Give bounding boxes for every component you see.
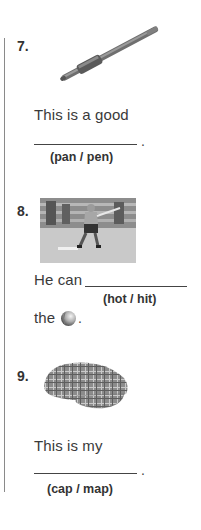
- ball-icon: [60, 310, 77, 327]
- sentence-text: This is my: [34, 437, 103, 454]
- sentence-text: This is a good: [34, 106, 129, 123]
- baseball-batter-photo: [40, 198, 136, 263]
- exercise-number: 9.: [17, 368, 29, 384]
- answer-blank[interactable]: [34, 473, 137, 474]
- sentence-text: He can: [34, 271, 82, 288]
- sentence-period: .: [78, 310, 82, 326]
- answer-blank[interactable]: [34, 144, 137, 145]
- exercise-number: 7.: [17, 38, 29, 54]
- flat-cap-image: [42, 360, 132, 412]
- answer-blank[interactable]: [85, 286, 187, 287]
- answer-choices: (pan / pen): [50, 150, 113, 164]
- exercise-number: 8.: [17, 203, 29, 219]
- sentence-period: .: [141, 462, 145, 478]
- left-margin-rule: [4, 38, 5, 492]
- answer-choices: (hot / hit): [103, 292, 156, 306]
- pen-image: [52, 24, 167, 84]
- sentence-period: .: [141, 133, 145, 149]
- sentence-text-line2: the: [34, 309, 55, 326]
- answer-choices: (cap / map): [47, 482, 113, 496]
